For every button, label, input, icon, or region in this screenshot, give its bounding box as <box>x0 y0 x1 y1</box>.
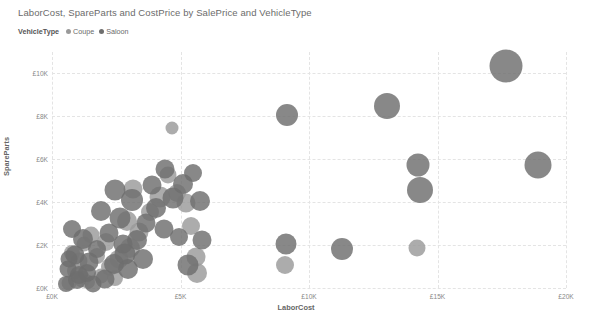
data-point-bubble[interactable] <box>407 153 430 176</box>
legend-item-saloon[interactable]: Saloon <box>99 27 128 36</box>
data-point-bubble[interactable] <box>156 159 175 178</box>
data-point-bubble[interactable] <box>193 230 212 249</box>
data-point-bubble[interactable] <box>489 49 522 82</box>
y-axis-tick-label: £4K <box>2 199 48 206</box>
gridline-vertical <box>438 52 439 288</box>
data-point-bubble[interactable] <box>331 238 353 260</box>
x-axis-tick-label: £5K <box>175 293 187 300</box>
data-point-bubble[interactable] <box>276 256 294 274</box>
gridline-vertical <box>566 52 567 288</box>
data-point-bubble[interactable] <box>524 151 551 178</box>
data-point-bubble[interactable] <box>408 240 425 257</box>
x-axis-tick-label: £20K <box>558 293 573 300</box>
y-axis-tick-label: £2K <box>2 242 48 249</box>
data-point-bubble[interactable] <box>133 249 153 269</box>
x-axis-tick-label: £10K <box>301 293 316 300</box>
gridline-vertical <box>181 52 182 288</box>
data-point-bubble[interactable] <box>374 93 400 119</box>
data-point-bubble[interactable] <box>170 228 188 246</box>
y-axis-tick-label: £10K <box>2 70 48 77</box>
data-point-bubble[interactable] <box>70 266 88 284</box>
legend-label-coupe: Coupe <box>73 27 94 36</box>
data-point-bubble[interactable] <box>113 235 132 254</box>
data-point-bubble[interactable] <box>190 191 210 211</box>
data-point-bubble[interactable] <box>104 180 125 201</box>
y-axis-title: SpareParts <box>2 127 11 187</box>
data-point-bubble[interactable] <box>276 104 298 126</box>
data-point-bubble[interactable] <box>91 201 111 221</box>
x-axis-tick-label: £0K <box>46 293 58 300</box>
legend-label-saloon: Saloon <box>106 27 128 36</box>
legend-item-coupe[interactable]: Coupe <box>66 27 94 36</box>
gridline-vertical <box>309 52 310 288</box>
legend-swatch-saloon <box>99 29 104 34</box>
x-axis-tick-label: £15K <box>430 293 445 300</box>
data-point-bubble[interactable] <box>165 122 178 135</box>
legend-swatch-coupe <box>66 29 71 34</box>
data-point-bubble[interactable] <box>407 177 433 203</box>
data-point-bubble[interactable] <box>275 234 296 255</box>
gridline-horizontal <box>52 288 566 289</box>
data-point-bubble[interactable] <box>143 176 162 195</box>
gridline-vertical <box>52 52 53 288</box>
x-axis-title: LaborCost <box>0 303 592 312</box>
y-axis-tick-label: £0K <box>2 285 48 292</box>
data-point-bubble[interactable] <box>63 220 81 238</box>
data-point-bubble[interactable] <box>110 208 131 229</box>
plot-area <box>52 52 566 288</box>
chart-title: LaborCost, SpareParts and CostPrice by S… <box>18 7 312 18</box>
y-axis-tick-label: £8K <box>2 113 48 120</box>
data-point-bubble[interactable] <box>178 255 199 276</box>
data-point-bubble[interactable] <box>184 164 202 182</box>
data-point-bubble[interactable] <box>60 251 77 268</box>
bubble-chart: LaborCost, SpareParts and CostPrice by S… <box>0 0 592 318</box>
